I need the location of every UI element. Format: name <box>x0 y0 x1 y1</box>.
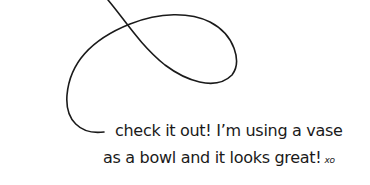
caption-line-2: as a bowl and it looks great!xo <box>103 148 335 167</box>
caption-line-2-text: as a bowl and it looks great! <box>103 148 321 167</box>
caption-line-1: check it out! I’m using a vase <box>115 121 343 140</box>
signoff-xo: xo <box>324 155 334 165</box>
